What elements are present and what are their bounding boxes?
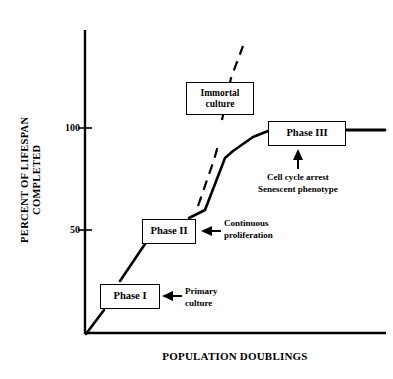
curve-solid-segment-phase2-to-plateau [189, 131, 268, 218]
senescence-line-2: Senescent phenotype [258, 184, 338, 196]
label-box-phase-1: Phase I [100, 284, 160, 309]
primary-culture-line-1: Primary [185, 286, 217, 298]
curve-dashed-immortal-lower [198, 142, 219, 206]
label-box-immortal-culture: Immortal culture [186, 82, 254, 115]
continuous-proliferation-line-1: Continuous [224, 218, 273, 230]
annotation-senescence: Cell cycle arrest Senescent phenotype [258, 172, 338, 195]
y-tick-label-100: 100 [56, 122, 80, 133]
phase-3-label: Phase III [286, 127, 327, 139]
annotation-primary-culture: Primary culture [185, 286, 217, 309]
label-box-phase-3: Phase III [268, 121, 346, 146]
lifespan-phases-figure: 100 50 PERCENT OF LIFESPAN COMPLETED POP… [0, 0, 393, 379]
annotation-continuous-proliferation: Continuous proliferation [224, 218, 273, 241]
immortal-culture-line-2: culture [206, 99, 235, 110]
x-axis-title: POPULATION DOUBLINGS [85, 350, 385, 362]
continuous-proliferation-line-2: proliferation [224, 230, 273, 242]
phase-2-label: Phase II [150, 225, 187, 237]
primary-culture-line-2: culture [185, 298, 217, 310]
y-axis-title-line-2: COMPLETED [31, 112, 43, 248]
y-axis-title-line-1: PERCENT OF LIFESPAN [19, 112, 31, 248]
y-axis-title: PERCENT OF LIFESPAN COMPLETED [19, 112, 43, 248]
curve-solid-segment-origin [86, 310, 104, 334]
senescence-line-1: Cell cycle arrest [258, 172, 338, 184]
arrow-continuous-proliferation-head [201, 226, 212, 236]
label-box-phase-2: Phase II [142, 219, 196, 244]
arrow-senescence-head [293, 149, 303, 160]
phase-1-label: Phase I [114, 290, 147, 302]
curve-solid-segment-phase1-to-phase2 [120, 244, 145, 281]
y-tick-label-50: 50 [56, 224, 80, 235]
arrow-primary-culture-head [162, 291, 173, 301]
immortal-culture-line-1: Immortal [200, 88, 239, 99]
